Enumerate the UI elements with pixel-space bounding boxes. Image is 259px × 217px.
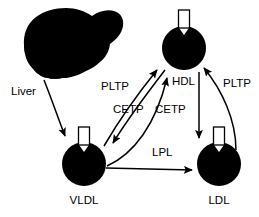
vldl-node: VLDL xyxy=(62,127,106,206)
lpl-label: LPL xyxy=(152,146,173,158)
lipoprotein-metabolism-diagram: Liver PLTP CETP CETP PLTP xyxy=(0,0,259,217)
edge-vldl-to-ldl-lpl: LPL xyxy=(106,146,192,170)
hdl-apolipoprotein-tab xyxy=(179,10,190,28)
edge-liver-to-vldl xyxy=(44,80,65,136)
ldl-apolipoprotein-tab xyxy=(214,127,225,145)
pltp-right-label: PLTP xyxy=(223,77,251,89)
cetp-left-label: CETP xyxy=(113,103,144,115)
hdl-label: HDL xyxy=(172,75,196,87)
vldl-to-ldl-lpl-arrow xyxy=(106,168,192,170)
vldl-label: VLDL xyxy=(70,194,99,206)
ldl-label: LDL xyxy=(208,194,230,206)
pltp-left-label: PLTP xyxy=(101,80,129,92)
edge-ldl-to-hdl-pltp: PLTP xyxy=(204,68,251,150)
cetp-right-label: CETP xyxy=(155,103,186,115)
vldl-apolipoprotein-tab xyxy=(79,127,90,145)
diagram-canvas: Liver PLTP CETP CETP PLTP xyxy=(0,0,259,217)
liver-label: Liver xyxy=(11,85,36,97)
ldl-node: LDL xyxy=(197,127,241,206)
liver-to-vldl-arrow xyxy=(44,80,65,136)
liver-silhouette-icon xyxy=(24,8,123,79)
